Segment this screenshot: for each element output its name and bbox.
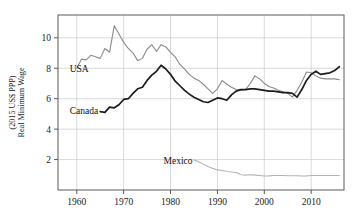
y-axis-title: Real Minimum Wage(2015 US$ PPP) <box>8 67 26 138</box>
y-tick-label: 4 <box>46 125 51 135</box>
x-tick-label: 1960 <box>67 197 86 207</box>
chart-canvas: 246810196019701980199020002010 USACanada… <box>0 0 353 224</box>
gridlines <box>58 15 344 190</box>
x-tick-label: 1980 <box>161 197 180 207</box>
annotation-canada: Canada <box>70 106 99 116</box>
series-line-canada <box>100 65 339 112</box>
x-tick-label: 1970 <box>114 197 133 207</box>
x-tick-label: 2000 <box>255 197 274 207</box>
y-tick-label: 6 <box>46 94 51 104</box>
y-axis-title-line2: (2015 US$ PPP) <box>8 75 17 129</box>
annotation-mexico: Mexico <box>163 156 192 166</box>
x-tick-label: 1990 <box>208 197 227 207</box>
plot-frame <box>58 15 344 190</box>
x-tick-label: 2010 <box>302 197 321 207</box>
chart-figure: 246810196019701980199020002010 USACanada… <box>0 0 353 224</box>
series-lines <box>77 26 340 176</box>
annotation-usa: USA <box>70 64 89 74</box>
series-line-mexico <box>194 160 339 176</box>
y-tick-label: 8 <box>46 64 51 74</box>
axis-frame <box>58 15 344 190</box>
series-line-usa <box>77 26 340 98</box>
y-axis-title-line1: Real Minimum Wage <box>17 67 26 138</box>
y-tick-label: 10 <box>42 33 52 43</box>
y-tick-label: 2 <box>46 155 51 165</box>
